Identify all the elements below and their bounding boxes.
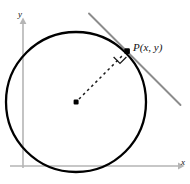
- point-p-label: P(x, y): [133, 42, 162, 53]
- figure-canvas: [0, 0, 190, 184]
- circle-tangent-figure: P(x, y) y x: [0, 0, 190, 184]
- tangent-line: [89, 14, 181, 106]
- x-axis-label: x: [181, 158, 185, 167]
- tangent-point-marker: [124, 48, 130, 54]
- y-axis-label: y: [18, 10, 22, 19]
- figure-caption: [4, 179, 186, 184]
- center-point-marker: [74, 100, 79, 105]
